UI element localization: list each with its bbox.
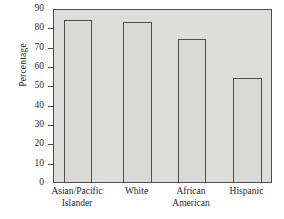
x-axis-label-line: Islander xyxy=(37,197,117,209)
y-tick: 40 xyxy=(0,106,53,107)
y-tick-label: 30 xyxy=(35,118,45,131)
y-tick-label: 60 xyxy=(35,60,45,73)
bar xyxy=(233,78,262,182)
y-tick-label: 90 xyxy=(35,2,45,15)
y-tick: 30 xyxy=(0,125,53,126)
y-tick-label: 20 xyxy=(35,137,45,150)
y-tick: 0 xyxy=(0,183,53,184)
y-tick-label: 50 xyxy=(35,79,45,92)
bar xyxy=(123,22,152,182)
x-axis-labels: Asian/PacificIslanderWhiteAfricanAmerica… xyxy=(53,185,272,219)
y-tick: 10 xyxy=(0,164,53,165)
plot-area xyxy=(53,9,272,183)
bar-chart: Percentage 9080706050403020100 Asian/Pac… xyxy=(0,0,283,219)
x-axis-label-line: Hispanic xyxy=(207,185,284,197)
y-tick: 50 xyxy=(0,86,53,87)
x-axis-label: Hispanic xyxy=(207,185,284,197)
y-tick-label: 80 xyxy=(35,21,45,34)
y-axis-title: Percentage xyxy=(18,10,28,120)
y-tick-label: 40 xyxy=(35,99,45,112)
x-axis-label-line: American xyxy=(151,197,231,209)
y-tick-label: 70 xyxy=(35,41,45,54)
y-tick: 60 xyxy=(0,67,53,68)
y-tick-label: 10 xyxy=(35,157,45,170)
y-tick: 90 xyxy=(0,9,53,10)
bar xyxy=(178,39,206,182)
y-tick: 70 xyxy=(0,48,53,49)
bar xyxy=(64,20,92,182)
y-tick: 80 xyxy=(0,28,53,29)
y-tick: 20 xyxy=(0,144,53,145)
